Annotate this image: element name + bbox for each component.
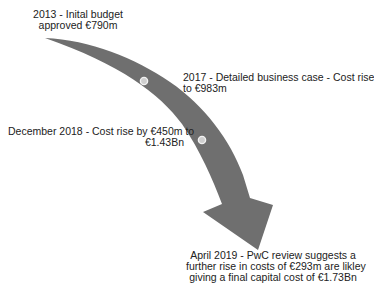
milestone-2017-line-2: to €983m (183, 83, 374, 94)
milestone-2013-line-2: approved €790m (30, 20, 126, 31)
timeline-marker-2017 (140, 77, 147, 84)
milestone-2019-label: April 2019 - PwC review suggests a furth… (186, 250, 360, 283)
milestone-2018-label: December 2018 - Cost rise by €450m to €1… (8, 126, 184, 148)
milestone-2017-label: 2017 - Detailed business case - Cost ris… (183, 72, 374, 94)
milestone-2018-line-2: €1.43Bn (8, 137, 184, 148)
milestone-2013-label: 2013 - Inital budget approved €790m (30, 9, 126, 31)
milestone-2019-line-3: giving a final capital cost of €1.73Bn (186, 272, 360, 283)
timeline-marker-2018 (198, 136, 205, 143)
